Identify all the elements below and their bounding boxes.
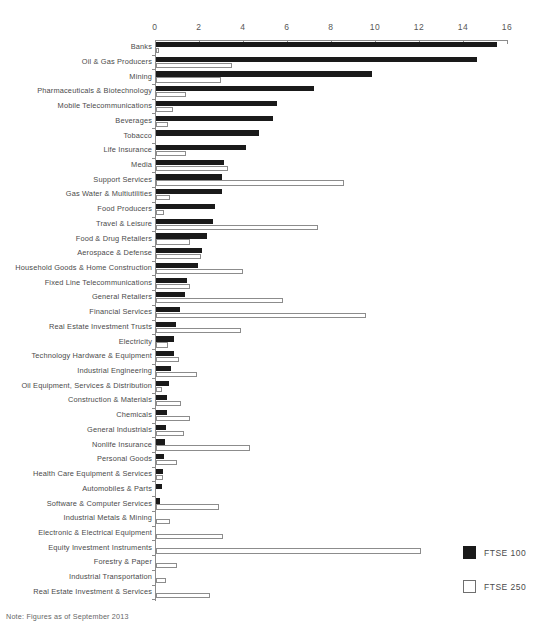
- bar-ftse250[interactable]: [156, 548, 421, 553]
- bar-ftse100[interactable]: [156, 351, 174, 356]
- x-tick-label: 14: [458, 22, 469, 32]
- bar-ftse100[interactable]: [156, 410, 167, 415]
- bar-ftse250[interactable]: [156, 269, 243, 274]
- bar-ftse100[interactable]: [156, 454, 164, 459]
- bar-ftse100[interactable]: [156, 263, 198, 268]
- bar-row: Industrial Engineering: [0, 364, 542, 379]
- bar-ftse100[interactable]: [156, 425, 166, 430]
- x-tick-label: 0: [152, 22, 157, 32]
- bar-ftse250[interactable]: [156, 48, 159, 53]
- bar-ftse100[interactable]: [156, 498, 160, 503]
- bar-ftse100[interactable]: [156, 469, 163, 474]
- bar-ftse100[interactable]: [156, 130, 259, 135]
- category-label: Software & Computer Services: [47, 499, 152, 508]
- bar-ftse250[interactable]: [156, 475, 163, 480]
- bar-ftse100[interactable]: [156, 336, 174, 341]
- category-label: General Industrials: [87, 425, 152, 434]
- bar-ftse100[interactable]: [156, 160, 224, 165]
- bar-ftse250[interactable]: [156, 578, 166, 583]
- bar-ftse250[interactable]: [156, 593, 210, 598]
- category-label: Mobile Telecommunications: [58, 101, 152, 110]
- legend-swatch-icon: [463, 546, 476, 559]
- bar-row: Electronic & Electrical Equipment: [0, 526, 542, 541]
- legend-label: FTSE 100: [484, 548, 526, 558]
- bar-ftse250[interactable]: [156, 92, 186, 97]
- bar-ftse100[interactable]: [156, 278, 187, 283]
- bar-ftse250[interactable]: [156, 195, 170, 200]
- bar-ftse100[interactable]: [156, 395, 167, 400]
- bar-ftse100[interactable]: [156, 189, 222, 194]
- bar-ftse250[interactable]: [156, 357, 179, 362]
- x-tick-label: 2: [196, 22, 201, 32]
- bar-ftse250[interactable]: [156, 284, 190, 289]
- bar-ftse100[interactable]: [156, 204, 215, 209]
- bar-ftse100[interactable]: [156, 292, 185, 297]
- bar-row: Industrial Transportation: [0, 570, 542, 585]
- bar-ftse250[interactable]: [156, 77, 221, 82]
- bar-ftse250[interactable]: [156, 254, 201, 259]
- bar-ftse250[interactable]: [156, 122, 168, 127]
- bar-ftse250[interactable]: [156, 416, 190, 421]
- bar-ftse100[interactable]: [156, 248, 202, 253]
- bar-ftse250[interactable]: [156, 460, 177, 465]
- category-label: Industrial Metals & Mining: [63, 513, 152, 522]
- category-label: Electronic & Electrical Equipment: [38, 528, 152, 537]
- bar-ftse250[interactable]: [156, 519, 170, 524]
- bar-ftse250[interactable]: [156, 431, 184, 436]
- category-label: Real Estate Investment & Services: [33, 587, 152, 596]
- bar-ftse250[interactable]: [156, 225, 318, 230]
- bar-ftse250[interactable]: [156, 401, 181, 406]
- bar-ftse250[interactable]: [156, 372, 197, 377]
- bar-ftse100[interactable]: [156, 57, 477, 62]
- bar-ftse100[interactable]: [156, 233, 207, 238]
- bar-row: Banks: [0, 40, 542, 55]
- category-label: Life Insurance: [103, 145, 152, 154]
- bar-ftse100[interactable]: [156, 322, 176, 327]
- bar-ftse100[interactable]: [156, 71, 372, 76]
- bar-ftse100[interactable]: [156, 381, 169, 386]
- bar-ftse250[interactable]: [156, 298, 283, 303]
- category-label: Banks: [131, 42, 152, 51]
- bar-ftse250[interactable]: [156, 166, 228, 171]
- bar-ftse250[interactable]: [156, 387, 162, 392]
- bar-ftse250[interactable]: [156, 504, 219, 509]
- bar-ftse250[interactable]: [156, 63, 232, 68]
- category-label: Financial Services: [89, 307, 152, 316]
- bar-ftse250[interactable]: [156, 210, 164, 215]
- bar-ftse250[interactable]: [156, 107, 173, 112]
- bar-ftse100[interactable]: [156, 116, 273, 121]
- bar-ftse100[interactable]: [156, 366, 171, 371]
- bar-row: Nonlife Insurance: [0, 437, 542, 452]
- bar-ftse100[interactable]: [156, 101, 277, 106]
- bar-ftse250[interactable]: [156, 180, 344, 185]
- bar-ftse100[interactable]: [156, 86, 314, 91]
- bar-ftse250[interactable]: [156, 151, 186, 156]
- bar-ftse250[interactable]: [156, 445, 250, 450]
- bar-ftse100[interactable]: [156, 145, 246, 150]
- bar-ftse100[interactable]: [156, 439, 165, 444]
- bar-ftse100[interactable]: [156, 42, 497, 47]
- bar-ftse100[interactable]: [156, 484, 162, 489]
- bar-row: Pharmaceuticals & Biotechnology: [0, 84, 542, 99]
- legend-item-ftse250[interactable]: FTSE 250: [463, 580, 542, 614]
- bar-ftse250[interactable]: [156, 328, 241, 333]
- bar-ftse250[interactable]: [156, 342, 168, 347]
- bar-ftse250[interactable]: [156, 313, 366, 318]
- bar-row: Travel & Leisure: [0, 217, 542, 232]
- category-label: Support Services: [93, 175, 152, 184]
- bar-row: Support Services: [0, 172, 542, 187]
- category-label: Personal Goods: [97, 454, 152, 463]
- bar-row: Food & Drug Retailers: [0, 231, 542, 246]
- bar-ftse100[interactable]: [156, 219, 213, 224]
- category-label: Beverages: [115, 116, 152, 125]
- bar-row: Financial Services: [0, 305, 542, 320]
- category-label: Industrial Engineering: [77, 366, 152, 375]
- bar-ftse100[interactable]: [156, 307, 180, 312]
- bar-ftse100[interactable]: [156, 174, 222, 179]
- bar-row: Media: [0, 158, 542, 173]
- bar-ftse250[interactable]: [156, 534, 223, 539]
- legend-item-ftse100[interactable]: FTSE 100: [463, 546, 542, 580]
- bar-ftse250[interactable]: [156, 239, 190, 244]
- bar-ftse250[interactable]: [156, 563, 177, 568]
- footer-note: Note: Figures as of September 2013: [6, 612, 129, 621]
